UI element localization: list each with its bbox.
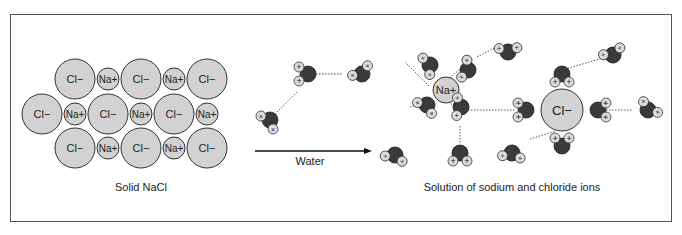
svg-text:Na+: Na+ [165,143,184,154]
water-molecule [550,66,574,87]
water-arrow-label: Water [296,155,325,167]
chloride-ion: Cl− [55,59,95,99]
sodium-ion: Na+ [130,103,152,125]
chloride-ion: Cl− [187,128,227,168]
sodium-ion: Na+ [196,103,218,125]
svg-text:Cl−: Cl− [67,142,84,154]
solution-ions: Na+ Cl− [378,32,663,174]
chloride-ion: Cl− [121,59,161,99]
svg-text:Cl−: Cl− [552,103,572,118]
solid-nacl-lattice: Cl− Na+ Cl− Na+ Cl− Cl− Na+ Cl− Na+ Cl− … [22,59,227,168]
svg-text:Na+: Na+ [198,109,217,120]
sodium-ion: Na+ [163,68,185,90]
chloride-ion: Cl− [55,128,95,168]
svg-text:Na+: Na+ [436,84,457,96]
svg-text:Cl−: Cl− [100,108,117,120]
water-molecule [256,111,278,134]
svg-text:+: + [296,76,301,86]
water-molecule [347,58,373,84]
svg-text:+: + [296,62,301,72]
svg-text:Na+: Na+ [165,74,184,85]
water-molecules: + + [256,58,373,134]
chloride-ion: Cl− [121,128,161,168]
sodium-ion: Na+ [163,137,185,159]
svg-text:Cl−: Cl− [34,108,51,120]
water-molecule [412,52,441,81]
sodium-ion: Na+ [64,103,86,125]
sodium-ion: Na+ [97,137,119,159]
svg-text:Cl−: Cl− [67,73,84,85]
svg-text:Na+: Na+ [99,74,118,85]
svg-text:Na+: Na+ [66,109,85,120]
svg-text:Cl−: Cl− [133,73,150,85]
nacl-dissolution-diagram: × × + + Cl− Na+ Cl− Na+ Cl− Cl− Na+ Cl− … [0,0,682,235]
svg-text:Na+: Na+ [99,143,118,154]
water-molecule [378,143,409,174]
svg-text:Cl−: Cl− [199,73,216,85]
svg-text:Cl−: Cl− [133,142,150,154]
water-molecule [448,145,472,166]
svg-text:Cl−: Cl− [199,142,216,154]
chloride-ion: Cl− [541,89,583,131]
water-molecule [412,95,438,121]
water-molecule [550,133,574,154]
water-molecule [638,94,664,120]
dissolution-arrow [255,148,372,154]
solution-caption: Solution of sodium and chloride ions [424,181,601,193]
water-molecule [590,98,611,122]
water-molecule [513,98,534,122]
chloride-ion: Cl− [154,94,194,134]
water-molecule [597,37,626,66]
water-molecule [492,32,524,64]
water-molecule: + + [294,62,316,86]
svg-text:Na+: Na+ [132,109,151,120]
chloride-ion: Cl− [88,94,128,134]
water-molecule [495,141,527,173]
sodium-ion: Na+ [97,68,119,90]
chloride-ion: Cl− [187,59,227,99]
chloride-ion: Cl− [22,94,62,134]
svg-text:Cl−: Cl− [166,108,183,120]
solid-nacl-caption: Solid NaCl [115,181,167,193]
